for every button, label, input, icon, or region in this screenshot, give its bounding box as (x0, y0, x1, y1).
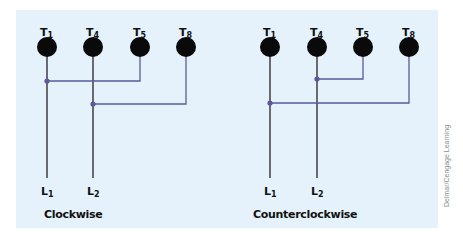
caption-clockwise: Clockwise (44, 208, 102, 221)
lead-label-l1: L1 (264, 185, 277, 199)
lead-label-l2: L2 (87, 185, 100, 199)
counterclockwise-diagram: T1 T4 T5 T8 L1 L2 Counterclockwise (253, 26, 419, 221)
terminal-t4 (307, 37, 327, 57)
junction-dot (314, 76, 319, 81)
lead-label-l2: L2 (311, 185, 324, 199)
terminal-t1 (260, 37, 280, 57)
junction-dot (267, 100, 272, 105)
terminal-t8 (176, 37, 196, 57)
caption-counterclockwise: Counterclockwise (253, 208, 357, 221)
image-credit: Delmar/Cengage Learning (443, 125, 450, 207)
jumper-t1-t8 (270, 47, 409, 103)
lead-label-l1: L1 (41, 185, 54, 199)
terminal-t5 (130, 37, 150, 57)
terminal-t5 (353, 37, 373, 57)
junction-dot (44, 78, 49, 83)
terminal-t1 (37, 37, 57, 57)
junction-dot (90, 101, 95, 106)
clockwise-diagram: T1 T4 T5 T8 L1 L2 Clockwise (37, 26, 196, 221)
terminal-t4 (83, 37, 103, 57)
terminal-t8 (399, 37, 419, 57)
motor-wiring-diagrams: T1 T4 T5 T8 L1 L2 Clockwise T1 T4 T5 T8 (0, 0, 463, 241)
